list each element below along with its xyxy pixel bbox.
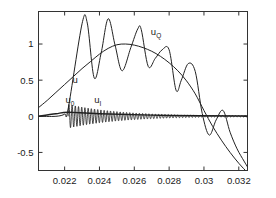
curve-label-base: u — [72, 74, 77, 85]
series-u — [39, 44, 248, 173]
y-tick-label: 0.5 — [20, 75, 33, 86]
x-tick-label: 0.026 — [122, 175, 146, 186]
chart-figure: 0.0220.0240.0260.0280.030.032-0.500.51uu… — [0, 0, 276, 198]
x-tick-label: 0.022 — [53, 175, 77, 186]
y-tick-label: 1 — [28, 38, 33, 49]
curve-label-u_0: u0 — [65, 94, 74, 107]
curve-label-u_Q: uQ — [151, 26, 161, 40]
plot-frame — [39, 12, 248, 171]
curve-label-subscript: I — [100, 100, 102, 107]
x-tick-label: 0.03 — [195, 175, 214, 186]
series-u_I — [68, 105, 247, 128]
line-chart: 0.0220.0240.0260.0280.030.032-0.500.51uu… — [0, 0, 276, 198]
curve-label-subscript: 0 — [71, 100, 75, 107]
y-tick-label: 0 — [28, 111, 33, 122]
curve-label-u: u — [72, 74, 77, 85]
x-tick-label: 0.028 — [157, 175, 181, 186]
curve-label-u_I: uI — [94, 94, 101, 107]
x-tick-label: 0.032 — [227, 175, 251, 186]
curve-label-subscript: Q — [156, 32, 161, 40]
y-tick-label: -0.5 — [17, 147, 33, 158]
series-u_Q — [39, 15, 248, 167]
x-tick-label: 0.024 — [88, 175, 112, 186]
